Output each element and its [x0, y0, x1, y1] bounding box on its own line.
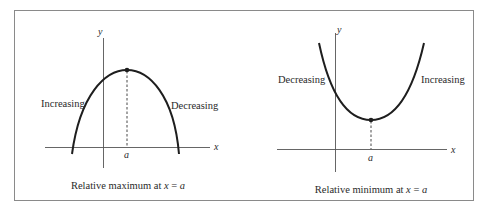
- max-point: [125, 68, 130, 73]
- x-axis-label: x: [450, 144, 456, 155]
- caption-maximum: Relative maximum at x = a: [71, 180, 185, 191]
- x-axis-label: x: [213, 141, 219, 152]
- panel-minimum: x y a Decreasing Increasing Relative min…: [277, 24, 465, 195]
- point-a-label: a: [368, 152, 373, 163]
- min-point: [369, 118, 374, 123]
- decreasing-label: Decreasing: [171, 100, 219, 111]
- panel-maximum: x y a Increasing Decreasing Relative max…: [41, 26, 219, 191]
- extrema-figure: x y a Increasing Decreasing Relative max…: [0, 0, 484, 221]
- max-curve: [72, 70, 179, 154]
- min-curve: [319, 43, 424, 120]
- decreasing-label: Decreasing: [278, 74, 326, 85]
- point-a-label: a: [124, 149, 129, 160]
- extrema-diagram: x y a Increasing Decreasing Relative max…: [0, 0, 484, 221]
- increasing-label: Increasing: [421, 74, 465, 85]
- y-axis-label: y: [97, 26, 103, 37]
- y-axis-label: y: [336, 24, 342, 35]
- increasing-label: Increasing: [41, 98, 85, 109]
- caption-minimum: Relative minimum at x = a: [315, 184, 427, 195]
